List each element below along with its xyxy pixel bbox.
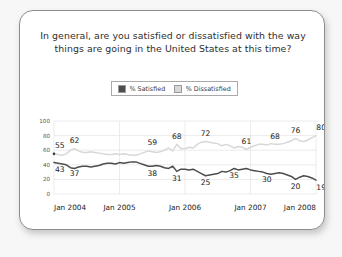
x-tick-label: Jan 2004 [53,203,86,212]
data-point-label: 55 [55,141,65,150]
legend-item-dissatisfied: % Dissatisfied [174,85,231,93]
legend-label-dissatisfied: % Dissatisfied [186,85,231,93]
chart-title-line-2: things are going in the United States at… [34,42,312,55]
data-point-label: 37 [70,169,80,178]
y-tick-label: 100 [39,118,50,124]
data-point-label: 25 [201,178,211,187]
legend-item-satisfied: % Satisfied [118,85,165,93]
legend-swatch-dissatisfied [174,85,182,93]
data-point-label: 20 [291,182,301,191]
data-point-label: 68 [270,132,280,141]
plot-area: 020406080100 556259687261687680433738312… [20,111,325,227]
x-tick-label: Jan 2008 [283,203,316,212]
x-tick-label: Jan 2005 [102,203,135,212]
poll-chart-card: In general, are you satisfied or dissati… [19,10,325,230]
line-chart-svg: 020406080100 556259687261687680433738312… [20,111,325,227]
legend-label-satisfied: % Satisfied [130,85,166,93]
series-lines [53,136,316,181]
x-axis-ticks: Jan 2004Jan 2005Jan 2006Jan 2007Jan 2008 [53,203,316,212]
chart-title: In general, are you satisfied or dissati… [34,29,312,55]
y-tick-label: 80 [43,133,51,139]
data-point-label: 61 [242,137,252,146]
data-point-label: 76 [291,126,301,135]
data-point-label: 59 [147,138,157,147]
y-tick-label: 0 [46,191,50,197]
x-tick-label: Jan 2007 [233,203,266,212]
data-point-label: 72 [201,129,211,138]
data-point-label: 31 [172,174,182,183]
y-tick-label: 40 [43,162,51,168]
data-point-label: 80 [316,123,325,132]
data-point-label: 30 [262,175,272,184]
chart-title-line-1: In general, are you satisfied or dissati… [34,29,312,42]
data-point-label: 35 [229,171,239,180]
chart-legend: % Satisfied % Dissatisfied [111,81,238,96]
y-axis-ticks: 020406080100 [39,118,50,197]
data-point-label: 19 [316,183,325,192]
legend-swatch-satisfied [118,85,126,93]
x-tick-label: Jan 2006 [168,203,201,212]
y-tick-label: 60 [43,147,51,153]
data-point-label: 43 [55,165,65,174]
data-point-label: 68 [172,132,182,141]
data-labels: 556259687261687680433738312535302019 [55,123,325,192]
y-tick-label: 20 [43,176,51,182]
data-point-label: 62 [70,136,80,145]
data-point-label: 38 [147,169,157,178]
